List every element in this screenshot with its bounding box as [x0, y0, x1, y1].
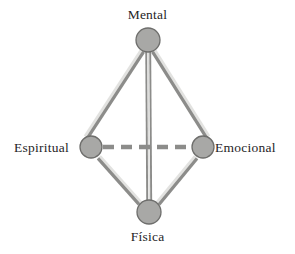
node-link-diagram	[0, 0, 295, 254]
edge-group	[86, 50, 208, 204]
node-fisica[interactable]	[137, 200, 161, 224]
edge-mental-espiritual	[86, 51, 144, 138]
node-label-mental: Mental	[0, 8, 295, 22]
node-espiritual[interactable]	[80, 136, 102, 158]
edge-espiritual-fisica	[98, 157, 140, 204]
diagram-canvas: Mental Espiritual Emocional Física	[0, 0, 295, 254]
edge-emocional-fisica	[158, 157, 197, 204]
node-label-espiritual: Espiritual	[14, 141, 69, 155]
node-mental[interactable]	[136, 28, 160, 52]
node-label-fisica: Física	[0, 230, 295, 244]
edge-mental-fisica	[146, 50, 151, 202]
node-emocional[interactable]	[192, 136, 214, 158]
node-label-emocional: Emocional	[215, 141, 276, 155]
edge-mental-emocional	[153, 51, 208, 138]
